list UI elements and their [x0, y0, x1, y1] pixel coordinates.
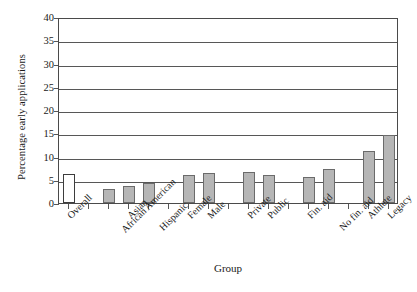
bar [103, 189, 115, 203]
x-axis-tick-labels: OverallAfrican AmericanAsianHispanicFema… [58, 209, 398, 261]
y-tick-label: 40 [28, 13, 54, 23]
bars-layer [59, 19, 397, 203]
bar [303, 177, 315, 204]
y-tick-label: 0 [28, 199, 54, 209]
y-tick-label: 5 [28, 176, 54, 186]
y-tick-label: 20 [28, 106, 54, 116]
y-tick-label: 30 [28, 60, 54, 70]
y-tick-label: 10 [28, 153, 54, 163]
bar [183, 175, 195, 203]
y-tick-label: 15 [28, 129, 54, 139]
y-tick-label: 35 [28, 36, 54, 46]
bar-chart: Percentage early applications 4035302520… [0, 0, 417, 292]
plot-area [58, 18, 398, 204]
x-axis-title: Group [58, 262, 398, 274]
y-tick-label: 25 [28, 83, 54, 93]
bar [243, 172, 255, 203]
y-axis-tick-labels: 4035302520151050 [28, 18, 54, 204]
bar [123, 186, 135, 203]
bar [63, 174, 75, 203]
